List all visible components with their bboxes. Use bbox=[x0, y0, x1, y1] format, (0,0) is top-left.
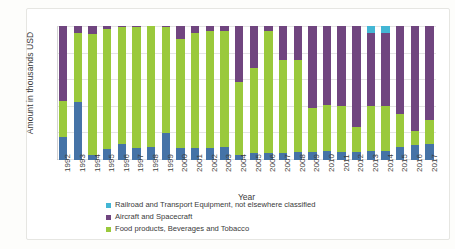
bar-segment bbox=[279, 60, 287, 154]
x-axis-tick: 1992 bbox=[59, 162, 67, 192]
bar-segment bbox=[191, 26, 199, 33]
bar-segment bbox=[294, 26, 302, 60]
bar-column[interactable] bbox=[250, 26, 258, 160]
bar-segment bbox=[118, 27, 126, 144]
bar-column[interactable] bbox=[367, 26, 375, 160]
bar-column[interactable] bbox=[308, 26, 316, 160]
x-axis-tick-label: 2002 bbox=[210, 154, 219, 172]
x-axis-tick-label: 1998 bbox=[151, 154, 160, 172]
x-axis-tick: 1996 bbox=[118, 162, 126, 192]
bar-segment bbox=[88, 26, 96, 34]
x-axis-tick: 2006 bbox=[264, 162, 272, 192]
bar-segment bbox=[264, 31, 272, 153]
x-axis-tick-label: 2010 bbox=[327, 154, 336, 172]
bar-segment bbox=[381, 33, 389, 107]
bar-segment bbox=[250, 26, 258, 68]
bar-column[interactable] bbox=[103, 26, 111, 160]
legend-swatch-icon bbox=[106, 227, 111, 232]
bar-column[interactable] bbox=[411, 26, 419, 160]
x-axis-tick-label: 2005 bbox=[254, 154, 263, 172]
x-axis-tick-label: 2011 bbox=[342, 154, 351, 171]
x-axis-tick-label: 2013 bbox=[371, 154, 380, 172]
x-axis-tick: 1998 bbox=[147, 162, 155, 192]
x-axis-tick: 2013 bbox=[367, 162, 375, 192]
x-axis-tick: 1993 bbox=[74, 162, 82, 192]
bar-segment bbox=[425, 26, 433, 120]
x-axis-tick-label: 2015 bbox=[400, 154, 409, 172]
x-axis-tick-label: 2007 bbox=[283, 154, 292, 172]
bar-column[interactable] bbox=[59, 26, 67, 160]
plot-wrapper: 0%20%40%60%80%100% bbox=[57, 26, 436, 160]
bar-column[interactable] bbox=[206, 26, 214, 160]
x-axis-tick: 2008 bbox=[294, 162, 302, 192]
bar-column[interactable] bbox=[147, 26, 155, 160]
bar-segment bbox=[59, 101, 67, 137]
legend-item[interactable]: Food products, Beverages and Tobacco bbox=[106, 224, 316, 234]
bar-column[interactable] bbox=[381, 26, 389, 160]
bar-column[interactable] bbox=[279, 26, 287, 160]
bar-segment bbox=[74, 33, 82, 103]
bar-column[interactable] bbox=[396, 26, 404, 160]
bar-segment bbox=[367, 26, 375, 33]
bar-segment bbox=[235, 82, 243, 154]
bar-segment bbox=[308, 108, 316, 152]
bar-column[interactable] bbox=[337, 26, 345, 160]
x-axis-tick-label: 2017 bbox=[430, 154, 439, 172]
bar-segment bbox=[411, 131, 419, 146]
bar-segment bbox=[103, 29, 111, 150]
bar-segment bbox=[352, 26, 360, 127]
bar-column[interactable] bbox=[323, 26, 331, 160]
bar-segment bbox=[323, 26, 331, 105]
bar-column[interactable] bbox=[352, 26, 360, 160]
bar-column[interactable] bbox=[118, 26, 126, 160]
bar-segment bbox=[74, 102, 82, 160]
x-axis-tick-label: 1995 bbox=[107, 154, 116, 172]
bar-column[interactable] bbox=[88, 26, 96, 160]
bar-segment bbox=[279, 26, 287, 60]
legend-item[interactable]: Aircraft and Spacecraft bbox=[106, 212, 316, 222]
x-axis-tick: 2014 bbox=[381, 162, 389, 192]
bar-column[interactable] bbox=[191, 26, 199, 160]
bar-segment bbox=[220, 31, 228, 146]
legend-item[interactable]: Railroad and Transport Equipment, not el… bbox=[106, 200, 316, 210]
bar-segment bbox=[337, 106, 345, 152]
bar-segment bbox=[59, 26, 67, 101]
x-axis-tick-label: 2004 bbox=[239, 154, 248, 172]
bar-segment bbox=[132, 27, 140, 148]
x-axis-tick: 1999 bbox=[162, 162, 170, 192]
x-axis-tick: 2012 bbox=[352, 162, 360, 192]
x-axis-tick: 2005 bbox=[250, 162, 258, 192]
bar-column[interactable] bbox=[294, 26, 302, 160]
bar-segment bbox=[396, 26, 404, 114]
bar-column[interactable] bbox=[264, 26, 272, 160]
x-axis-tick: 2007 bbox=[279, 162, 287, 192]
bar-segment bbox=[176, 26, 184, 39]
x-axis-tick: 2002 bbox=[206, 162, 214, 192]
bar-column[interactable] bbox=[162, 26, 170, 160]
x-axis-tick-label: 2003 bbox=[224, 154, 233, 172]
bar-segment bbox=[381, 106, 389, 150]
bar-segment bbox=[191, 33, 199, 148]
bar-segment bbox=[425, 120, 433, 144]
bar-column[interactable] bbox=[176, 26, 184, 160]
legend-swatch-icon bbox=[106, 215, 111, 220]
bar-column[interactable] bbox=[235, 26, 243, 160]
x-axis-tick-label: 2009 bbox=[312, 154, 321, 172]
chart-legend: Railroad and Transport Equipment, not el… bbox=[106, 200, 316, 234]
bar-column[interactable] bbox=[74, 26, 82, 160]
x-axis-tick: 2015 bbox=[396, 162, 404, 192]
bar-segment bbox=[308, 26, 316, 108]
bar-segment bbox=[74, 26, 82, 33]
x-axis-tick: 2016 bbox=[411, 162, 419, 192]
x-axis-tick-label: 2014 bbox=[386, 154, 395, 172]
x-axis-tick-label: 2006 bbox=[268, 154, 277, 172]
bar-segment bbox=[411, 26, 419, 131]
bar-column[interactable] bbox=[132, 26, 140, 160]
bar-segment bbox=[337, 26, 345, 106]
x-axis-tick: 1995 bbox=[103, 162, 111, 192]
x-axis-tick: 2004 bbox=[235, 162, 243, 192]
x-axis-tick-label: 1996 bbox=[122, 154, 131, 172]
x-axis-tick-label: 2001 bbox=[195, 154, 204, 172]
bar-column[interactable] bbox=[220, 26, 228, 160]
bar-column[interactable] bbox=[425, 26, 433, 160]
